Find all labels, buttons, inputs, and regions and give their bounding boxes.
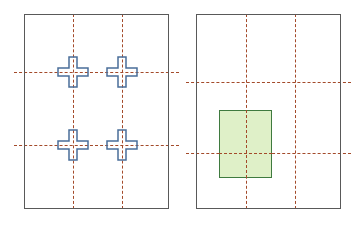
cross-marker-bottom-right bbox=[105, 128, 139, 162]
left-grid-hline-2 bbox=[14, 145, 179, 146]
cross-marker-bottom-left bbox=[56, 128, 90, 162]
cross-marker-top-left bbox=[56, 55, 90, 89]
left-grid-hline-1 bbox=[14, 72, 179, 73]
right-grid-vline-1-overlay bbox=[246, 110, 247, 178]
cross-marker-top-right bbox=[105, 55, 139, 89]
right-diagram-panel bbox=[196, 14, 341, 209]
left-grid-vline-2 bbox=[122, 14, 123, 209]
right-grid-hline-1 bbox=[186, 82, 351, 83]
left-panel-frame bbox=[24, 14, 169, 209]
left-diagram-panel bbox=[24, 14, 169, 209]
right-grid-vline-2 bbox=[295, 14, 296, 209]
right-grid-hline-2-overlay bbox=[219, 153, 272, 154]
left-grid-vline-1 bbox=[73, 14, 74, 209]
